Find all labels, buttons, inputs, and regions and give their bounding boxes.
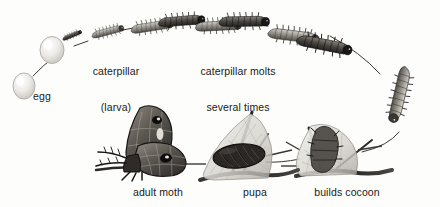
label-egg: egg bbox=[33, 90, 51, 102]
stage-egg bbox=[13, 73, 35, 99]
label-caterpillar-line1: caterpillar bbox=[93, 65, 140, 77]
label-builds-cocoon: builds cocoon bbox=[314, 186, 380, 198]
label-caterpillar-line2: (larva) bbox=[93, 101, 140, 113]
label-molts-line2: several times bbox=[200, 101, 275, 113]
label-caterpillar-molts: caterpillar molts several times bbox=[200, 41, 275, 137]
label-caterpillar-larva: caterpillar (larva) bbox=[93, 41, 140, 137]
label-pupa: pupa bbox=[243, 186, 267, 198]
label-adult-moth: adult moth bbox=[133, 186, 183, 198]
label-molts-line1: caterpillar molts bbox=[200, 65, 275, 77]
moth-life-cycle-diagram: caterpillar (larva) caterpillar molts se… bbox=[0, 0, 440, 207]
